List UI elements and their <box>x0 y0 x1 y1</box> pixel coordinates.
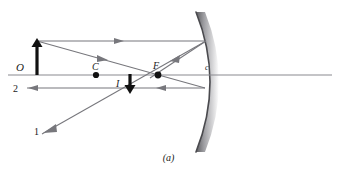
image-arrow-head <box>125 85 136 94</box>
ray-through-focus-incident <box>37 41 205 88</box>
ray-upper-return-arrowhead <box>170 55 180 63</box>
label-image-I: I <box>116 79 119 89</box>
ray-two-arrowhead-mid <box>156 85 166 91</box>
label-focal-point-F: F <box>153 61 159 71</box>
optics-figure: O C F c I 1 2 (a) <box>0 0 337 181</box>
figure-caption: (a) <box>0 152 337 163</box>
label-ray-two: 2 <box>13 84 18 94</box>
focal-point-dot <box>155 72 162 79</box>
ray-one-arrowhead <box>43 124 57 133</box>
label-mirror-vertex-c: c <box>205 64 209 72</box>
label-ray-one: 1 <box>34 127 39 137</box>
mirror-shadow <box>196 12 219 152</box>
center-of-curvature-dot <box>93 72 99 78</box>
ray-parallel-incident-arrowhead <box>114 38 124 44</box>
label-center-of-curvature-C: C <box>92 62 99 72</box>
label-object-O: O <box>16 62 24 73</box>
ray-two-arrowhead-left <box>28 85 38 91</box>
